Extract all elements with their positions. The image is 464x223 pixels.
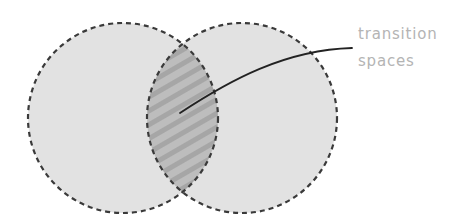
annotation-label-line1: transition bbox=[358, 25, 437, 43]
annotation-label-line2: spaces bbox=[358, 52, 415, 70]
venn-diagram: transition spaces bbox=[0, 0, 464, 223]
